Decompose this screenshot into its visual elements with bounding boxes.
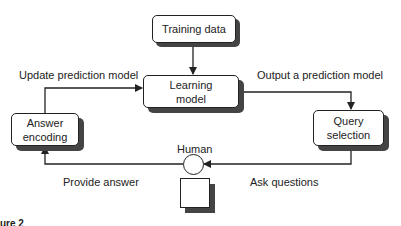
training-data-node: Training data xyxy=(152,15,236,43)
learning-model-line1: Learning xyxy=(170,78,213,92)
ask-questions-label: Ask questions xyxy=(250,176,318,188)
query-selection-line2: selection xyxy=(327,128,370,142)
answer-encoding-label: Answer encoding xyxy=(12,114,78,145)
output-prediction-model-label: Output a prediction model xyxy=(257,69,383,81)
caption-fragment: ure 2 xyxy=(0,219,24,226)
human-body-icon xyxy=(180,178,210,208)
answer-encoding-line2: encoding xyxy=(23,130,68,144)
provide-answer-label: Provide answer xyxy=(63,176,139,188)
answer-encoding-line1: Answer xyxy=(27,116,64,130)
learning-model-label: Learning model xyxy=(144,76,238,107)
update-prediction-model-label: Update prediction model xyxy=(19,69,138,81)
query-selection-node: Query selection xyxy=(313,110,384,146)
learning-model-line2: model xyxy=(176,92,206,106)
answer-encoding-node: Answer encoding xyxy=(11,113,79,146)
query-selection-label: Query selection xyxy=(314,111,383,145)
query-selection-line1: Query xyxy=(334,114,364,128)
training-data-label: Training data xyxy=(153,16,235,42)
human-head-icon xyxy=(183,154,204,175)
learning-model-node: Learning model xyxy=(143,75,239,108)
